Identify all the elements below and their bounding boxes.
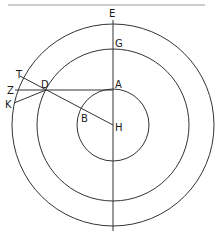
label-G: G (115, 38, 123, 49)
label-B: B (81, 113, 88, 124)
label-D: D (41, 79, 49, 90)
line-TH (20, 76, 113, 125)
label-T: T (15, 69, 23, 80)
label-H: H (115, 122, 123, 133)
label-K: K (5, 99, 12, 110)
geometry-diagram: E G A H B D T Z K (0, 0, 217, 236)
label-A: A (115, 79, 122, 90)
label-Z: Z (7, 85, 14, 96)
label-E: E (109, 8, 115, 19)
